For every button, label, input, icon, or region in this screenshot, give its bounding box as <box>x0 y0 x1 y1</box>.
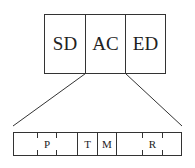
segment-r-label: R <box>149 138 157 150</box>
segment-t-label: T <box>84 138 91 150</box>
diagram-canvas: SD AC ED P T M R <box>0 0 195 168</box>
cell-ac-label: AC <box>92 33 118 54</box>
expand-line-right <box>126 74 183 127</box>
cell-sd-label: SD <box>53 33 77 54</box>
segment-p-label: P <box>44 138 50 150</box>
segment-m-label: M <box>102 138 112 150</box>
expand-line-left <box>13 74 86 127</box>
tick-marks <box>38 133 163 156</box>
bottom-bar <box>14 133 182 156</box>
cell-ed-label: ED <box>133 33 158 54</box>
